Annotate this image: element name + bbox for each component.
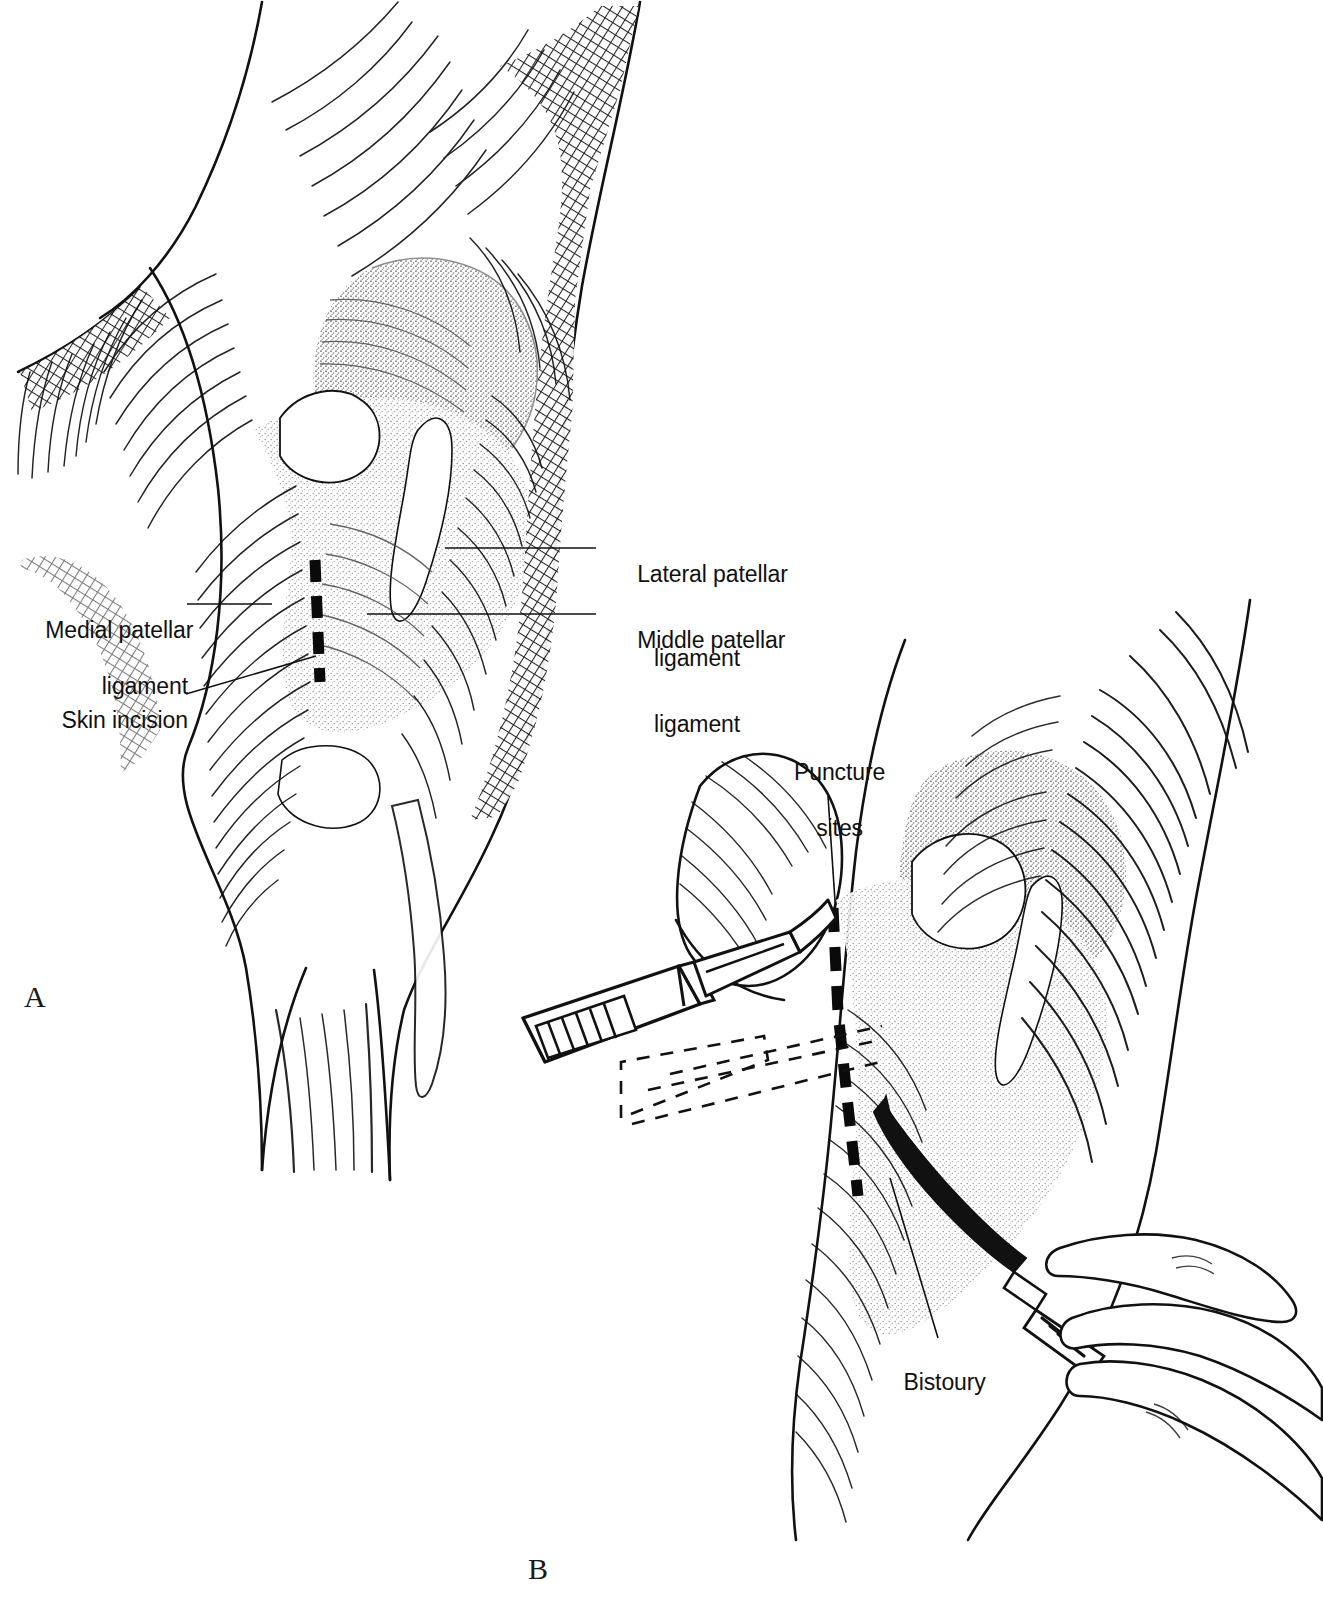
panel-letter-a: A — [24, 980, 46, 1014]
label-skin-incision-text: Skin incision — [61, 707, 188, 733]
panel-letter-b: B — [528, 1552, 548, 1586]
label-puncture-sites-line1: Puncture — [794, 759, 885, 785]
label-middle-patellar-ligament-line1: Middle patellar — [637, 627, 785, 653]
surgeon-hand — [1046, 1234, 1322, 1520]
label-puncture-sites: Puncture sites — [742, 730, 912, 870]
label-puncture-sites-line2: sites — [816, 815, 863, 841]
figure-root: Medial patellar ligament Skin incision L… — [0, 0, 1323, 1616]
muscle-hatching-a-upper — [272, 2, 574, 276]
label-bistoury-text: Bistoury — [903, 1369, 985, 1395]
lower-leg-a — [276, 800, 446, 1172]
label-skin-incision: Skin incision — [20, 678, 188, 762]
label-lateral-patellar-ligament-line1: Lateral patellar — [637, 561, 788, 587]
illustration-canvas — [0, 0, 1323, 1616]
label-medial-patellar-ligament-line1: Medial patellar — [45, 617, 193, 643]
label-bistoury: Bistoury — [838, 1340, 1026, 1424]
